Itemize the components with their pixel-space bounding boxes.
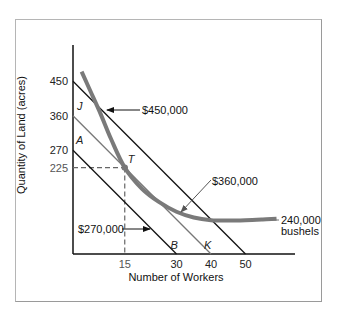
point-label-J: J [76, 100, 83, 112]
label-270000: $270,000 [78, 223, 124, 235]
point-label-B: B [171, 239, 178, 251]
label-isoquant-line2: bushels [281, 225, 319, 237]
x-tick-label-50: 50 [239, 258, 251, 270]
label-360000: $360,000 [212, 175, 258, 187]
x-tick-label-40: 40 [205, 258, 217, 270]
y-tick-label-450: 450 [50, 75, 68, 87]
label-450000: $450,000 [142, 104, 188, 116]
x-tick-label-15: 15 [119, 258, 131, 270]
y-tick-label-270: 270 [50, 144, 68, 156]
point-label-K: K [204, 239, 212, 251]
x-tick-label-30: 30 [170, 258, 182, 270]
point-label-T: T [128, 153, 136, 165]
y-tick-label-225: 225 [50, 162, 68, 174]
y-tick-label-360: 360 [50, 110, 68, 122]
tangency-point-dot [122, 164, 128, 170]
x-axis-label: Number of Workers [128, 271, 224, 283]
isoquant-curve [82, 72, 277, 221]
point-label-A: A [75, 134, 83, 146]
y-axis-label: Quantity of Land (acres) [15, 76, 27, 194]
arrow-360000 [181, 180, 211, 212]
chart-svg: 45036027022515304050JATBK Quantity of La… [0, 0, 340, 314]
